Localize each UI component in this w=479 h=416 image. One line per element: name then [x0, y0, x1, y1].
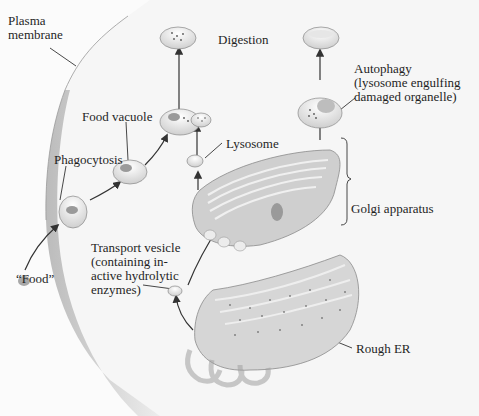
label-plasma-membrane: Plasma membrane — [8, 14, 63, 42]
phagocytic-cup — [59, 196, 87, 228]
digestion-lysosome — [160, 27, 196, 49]
label-digestion: Digestion — [218, 33, 269, 47]
small-lysosome-merge — [191, 113, 211, 127]
label-golgi-apparatus: Golgi apparatus — [351, 202, 434, 216]
label-food: “Food” — [16, 272, 54, 286]
lysosome-vesicle — [187, 155, 203, 167]
label-transport-vesicle: Transport vesicle (containing in- active… — [91, 241, 180, 297]
label-phagocytosis: Phagocytosis — [54, 153, 123, 167]
autophagy-digested — [303, 27, 339, 49]
lysosome-diagram: Plasma membrane Digestion Autophagy (lys… — [0, 0, 479, 416]
label-food-vacuole: Food vacuole — [82, 110, 152, 124]
label-rough-er: Rough ER — [356, 342, 411, 356]
label-autophagy: Autophagy (lysosome engulfing damaged or… — [354, 62, 461, 104]
label-lysosome: Lysosome — [226, 137, 279, 151]
autophagy-lysosome — [298, 98, 342, 128]
